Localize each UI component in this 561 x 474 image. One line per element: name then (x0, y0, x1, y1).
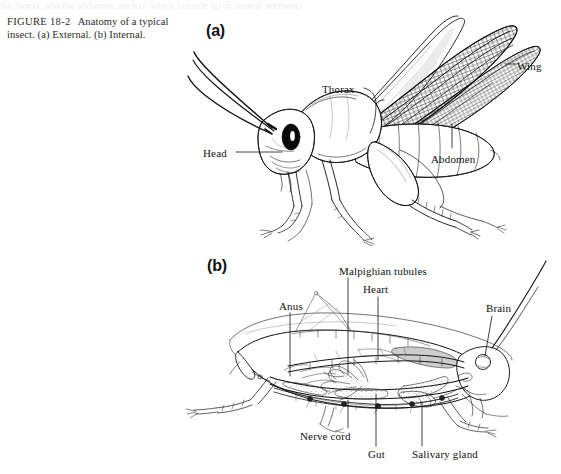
label-heart: Heart (363, 283, 388, 295)
label-nerve-cord: Nerve cord (300, 430, 351, 442)
label-brain: Brain (486, 302, 511, 314)
label-malpighian-tubules: Malpighian tubules (339, 265, 427, 277)
cropped-text-line: the thorax, and the abdomen, each of whi… (0, 0, 302, 9)
panel-b-letter: (b) (207, 257, 227, 275)
figure-number: FIGURE 18-2 (7, 16, 71, 27)
figure-caption: FIGURE 18-2Anatomy of a typical insect. … (7, 15, 175, 41)
panel-a-letter: (a) (206, 22, 225, 40)
label-abdomen: Abdomen (431, 153, 475, 165)
figure-page: the thorax, and the abdomen, each of whi… (0, 0, 561, 474)
label-head: Head (203, 147, 227, 159)
label-thorax: Thorax (322, 83, 355, 95)
label-anus: Anus (279, 300, 303, 312)
cropped-text-remnant: the thorax, and the abdomen, each of whi… (0, 0, 561, 9)
panel-b-illustration (0, 0, 561, 474)
panel-a-illustration (0, 0, 561, 474)
label-gut: Gut (368, 448, 385, 460)
label-salivary-gland: Salivary gland (412, 448, 478, 460)
label-wing: Wing (517, 60, 542, 72)
